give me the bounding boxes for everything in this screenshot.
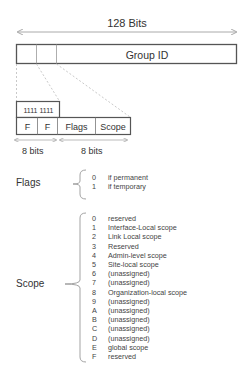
list-item: A(unassigned) bbox=[92, 306, 187, 315]
field-flags: Flags bbox=[57, 118, 96, 135]
list-item: 3Reserved bbox=[92, 242, 187, 251]
list-item: 1if temporary bbox=[92, 182, 148, 191]
flags-heading: Flags bbox=[16, 177, 40, 188]
list-item: 9(unassigned) bbox=[92, 297, 187, 306]
scope-list: 0reserved 1Interface-Local scope 2Link L… bbox=[92, 214, 187, 361]
bits-label-left: 8 bits bbox=[22, 146, 44, 156]
flags-brace bbox=[73, 170, 86, 199]
expand-line bbox=[57, 64, 131, 117]
list-item: Freserved bbox=[92, 352, 187, 361]
list-item: D(unassigned) bbox=[92, 334, 187, 343]
list-item: 0reserved bbox=[92, 214, 187, 223]
field-scope: Scope bbox=[95, 118, 131, 135]
scope-heading: Scope bbox=[16, 278, 44, 289]
flags-list: 0if permanent 1if temporary bbox=[92, 173, 148, 191]
list-item: Eglobal scope bbox=[92, 343, 187, 352]
list-item: 2Link Local scope bbox=[92, 232, 187, 241]
expand-line bbox=[37, 64, 61, 102]
list-item: 6(unassigned) bbox=[92, 269, 187, 278]
list-item: 4Admin-level scope bbox=[92, 251, 187, 260]
list-item: C(unassigned) bbox=[92, 324, 187, 333]
field-f2: F bbox=[37, 118, 58, 135]
total-bits-label: 128 Bits bbox=[0, 17, 250, 29]
list-item: 0if permanent bbox=[92, 173, 148, 182]
list-item: 8Organization-local scope bbox=[92, 288, 187, 297]
group-id-label: Group ID bbox=[57, 45, 237, 64]
scope-brace bbox=[65, 213, 86, 362]
list-item: 7(unassigned) bbox=[92, 278, 187, 287]
list-item: 5Site-local scope bbox=[92, 260, 187, 269]
prefix-label: 1111 1111 bbox=[17, 102, 60, 118]
bits-label-right: 8 bits bbox=[81, 146, 103, 156]
list-item: 1Interface-Local scope bbox=[92, 223, 187, 232]
field-f1: F bbox=[17, 118, 38, 135]
list-item: B(unassigned) bbox=[92, 315, 187, 324]
